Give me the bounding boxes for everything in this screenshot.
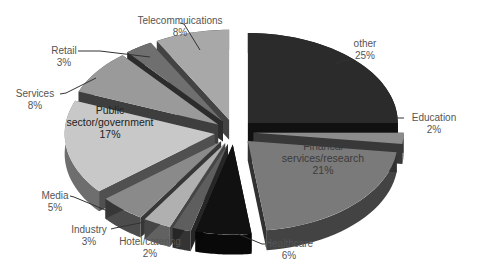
leader-education — [396, 117, 404, 118]
label-other-pct: 25% — [354, 50, 377, 62]
label-education-pct: 2% — [412, 124, 456, 136]
label-retail-pct: 3% — [51, 57, 77, 69]
label-public-name2: sector/government — [67, 116, 154, 128]
label-healthcare-name: Healthcare — [265, 238, 313, 250]
label-services-name: Services — [16, 88, 54, 100]
label-telecom-name: Telecommuications — [137, 15, 222, 27]
label-public-pct: 17% — [67, 128, 154, 140]
label-education: Education 2% — [412, 112, 456, 136]
label-retail-name: Retail — [51, 45, 77, 57]
label-other: other 25% — [354, 38, 377, 62]
label-services: Services 8% — [16, 88, 54, 112]
label-industry: Industry 3% — [71, 224, 107, 248]
label-education-name: Education — [412, 112, 456, 124]
label-other-name: other — [354, 38, 377, 50]
label-financial-name1: Financal — [282, 140, 364, 152]
label-hotel: Hotel/catering 2% — [119, 236, 181, 260]
label-telecom-pct: 8% — [137, 27, 222, 39]
label-telecom: Telecommuications 8% — [137, 15, 222, 39]
label-media-name: Media — [41, 190, 68, 202]
label-hotel-pct: 2% — [119, 248, 181, 260]
label-industry-name: Industry — [71, 224, 107, 236]
label-healthcare: Healthcare 6% — [265, 238, 313, 262]
label-media: Media 5% — [41, 190, 68, 214]
label-industry-pct: 3% — [71, 236, 107, 248]
label-financial: Financal services/research 21% — [282, 140, 364, 176]
slice-outer-wall — [195, 232, 251, 255]
label-hotel-name: Hotel/catering — [119, 236, 181, 248]
label-financial-name2: services/research — [282, 152, 364, 164]
label-financial-pct: 21% — [282, 164, 364, 176]
label-public-name1: Public — [67, 104, 154, 116]
label-healthcare-pct: 6% — [265, 250, 313, 262]
label-media-pct: 5% — [41, 202, 68, 214]
label-public: Public sector/government 17% — [67, 104, 154, 140]
label-services-pct: 8% — [16, 100, 54, 112]
label-retail: Retail 3% — [51, 45, 77, 69]
